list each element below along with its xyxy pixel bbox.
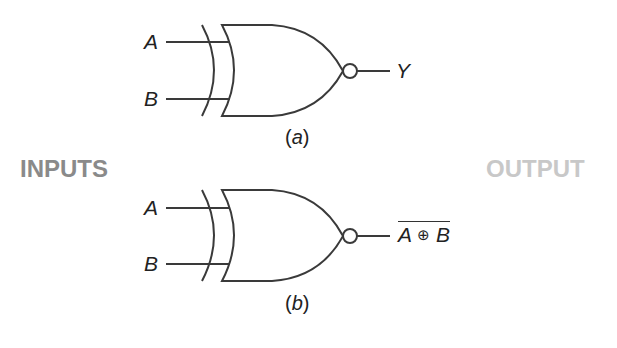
- gate-b-output-expression: A ⊕ B: [398, 221, 450, 247]
- xor-extra-arc: [202, 25, 214, 116]
- inversion-bubble: [343, 229, 357, 243]
- gate-a-input-a-label: A: [144, 30, 158, 54]
- xnor-gate-b: [166, 190, 390, 281]
- gate-a-input-b-label: B: [144, 87, 158, 111]
- xor-symbol: ⊕: [417, 226, 430, 243]
- gate-body: [222, 25, 343, 116]
- gate-b-input-b-label: B: [144, 252, 158, 276]
- inputs-label: INPUTS: [20, 155, 108, 183]
- gate-b-caption: (b): [285, 292, 309, 315]
- gate-a-output-label: Y: [396, 59, 410, 83]
- gate-body: [222, 190, 343, 281]
- gate-b-input-a-label: A: [144, 196, 158, 220]
- xor-extra-arc: [202, 190, 214, 281]
- xnor-gate-a: [166, 25, 390, 116]
- gate-a-caption: (a): [285, 126, 309, 149]
- inversion-bubble: [343, 64, 357, 78]
- output-label: OUTPUT: [486, 155, 585, 183]
